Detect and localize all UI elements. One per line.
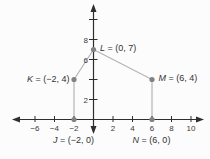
x-tick-label: −2 bbox=[69, 124, 79, 133]
vertex-label-L: L = (0, 7) bbox=[100, 43, 136, 53]
vertex-label-coords: = (−2, 4) bbox=[33, 74, 70, 84]
vertex-label-K: K = (−2, 4) bbox=[27, 74, 70, 84]
vertex-label-M: M = (6, 4) bbox=[159, 73, 198, 83]
vertex-dot-J bbox=[71, 117, 76, 122]
vertex-label-coords: = (0, 7) bbox=[105, 43, 136, 53]
vertex-label-J: J = (−2, 0) bbox=[52, 135, 94, 145]
x-tick-label: 4 bbox=[130, 124, 135, 133]
vertex-dot-K bbox=[71, 77, 76, 82]
coordinate-plane-figure: −6−4−2246810268J = (−2, 0)K = (−2, 4)L =… bbox=[0, 0, 210, 159]
vertex-dot-N bbox=[149, 117, 154, 122]
vertex-dot-L bbox=[91, 47, 96, 52]
vertex-label-N: N = (6, 0) bbox=[133, 135, 171, 145]
vertex-label-coords: = (−2, 0) bbox=[57, 135, 94, 145]
x-tick-label: −6 bbox=[30, 124, 40, 133]
x-tick-label: −4 bbox=[50, 124, 60, 133]
x-tick-label: 8 bbox=[169, 124, 174, 133]
x-tick-label: 6 bbox=[150, 124, 155, 133]
x-tick-label: 2 bbox=[111, 124, 116, 133]
vertex-dot-M bbox=[149, 77, 154, 82]
plot-svg: −6−4−2246810268J = (−2, 0)K = (−2, 4)L =… bbox=[0, 0, 210, 159]
y-tick-label: 6 bbox=[84, 56, 89, 65]
vertex-label-coords: = (6, 4) bbox=[166, 73, 197, 83]
x-tick-label: 10 bbox=[187, 124, 196, 133]
y-tick-label: 8 bbox=[84, 36, 89, 45]
y-tick-label: 2 bbox=[84, 96, 89, 105]
vertex-label-coords: = (6, 0) bbox=[139, 135, 170, 145]
